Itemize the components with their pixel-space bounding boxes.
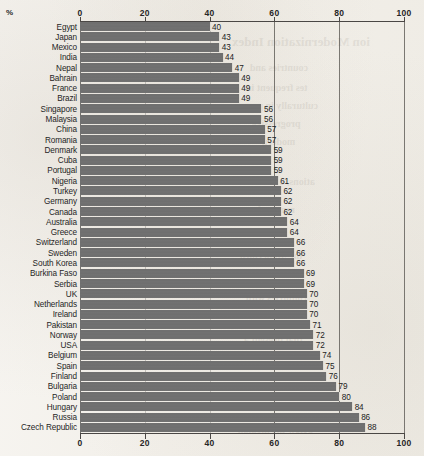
bar xyxy=(80,269,305,278)
bar xyxy=(80,372,327,381)
bar-value-label: 43 xyxy=(222,43,231,52)
bar-value-label: 70 xyxy=(309,310,318,319)
xtick-bottom-80: 80 xyxy=(334,438,344,448)
category-label: Bahrain xyxy=(49,73,77,82)
category-label: India xyxy=(60,53,77,62)
bar xyxy=(80,32,220,41)
bar-row: Germany62 xyxy=(80,197,404,206)
bar xyxy=(80,197,282,206)
bar-value-label: 66 xyxy=(296,238,305,247)
scanned-chart-page: ion Modernization Indexcountries andtes … xyxy=(0,0,424,456)
bar-row: Serbia69 xyxy=(80,279,404,288)
bar xyxy=(80,207,282,216)
bar xyxy=(80,53,224,62)
bar-value-label: 57 xyxy=(267,125,276,134)
category-label: Spain xyxy=(57,361,77,370)
bar-value-label: 88 xyxy=(368,423,377,432)
bar xyxy=(80,248,295,257)
category-label: Nepal xyxy=(56,63,77,72)
bar xyxy=(80,217,288,226)
category-label: Switzerland xyxy=(36,238,77,247)
bar xyxy=(80,238,295,247)
bar-row: Switzerland66 xyxy=(80,238,404,247)
bar-value-label: 70 xyxy=(309,289,318,298)
bar xyxy=(80,289,308,298)
bar-row: USA72 xyxy=(80,341,404,350)
category-label: Czech Republic xyxy=(21,423,77,432)
bar xyxy=(80,330,314,339)
bar xyxy=(80,94,240,103)
bar xyxy=(80,22,211,31)
bar-value-label: 57 xyxy=(267,135,276,144)
bar-row: Mexico43 xyxy=(80,43,404,52)
bar-value-label: 76 xyxy=(329,372,338,381)
bar xyxy=(80,228,288,237)
bar-value-label: 84 xyxy=(355,402,364,411)
bar xyxy=(80,320,311,329)
bar xyxy=(80,341,314,350)
bar-row: UK70 xyxy=(80,289,404,298)
bar-row: Ireland70 xyxy=(80,310,404,319)
bar-row: Sweden66 xyxy=(80,248,404,257)
xtick-bottom-20: 20 xyxy=(140,438,150,448)
bar-value-label: 69 xyxy=(306,279,315,288)
bar-row: Netherlands70 xyxy=(80,300,404,309)
bar-row: Nepal47 xyxy=(80,63,404,72)
category-label: Hungary xyxy=(47,402,77,411)
bar-row: Russia86 xyxy=(80,413,404,422)
category-label: Japan xyxy=(55,32,77,41)
bar xyxy=(80,63,233,72)
bar-row: Spain75 xyxy=(80,361,404,370)
bar xyxy=(80,310,308,319)
bar-row: Nigeria61 xyxy=(80,176,404,185)
bar-value-label: 86 xyxy=(361,413,370,422)
category-label: UK xyxy=(66,289,77,298)
bar-row: Cuba59 xyxy=(80,156,404,165)
axis-unit-label: % xyxy=(6,8,13,17)
category-label: Bulgaria xyxy=(48,382,77,391)
bar-row: Poland80 xyxy=(80,392,404,401)
category-label: USA xyxy=(60,341,77,350)
bar-row: Australia64 xyxy=(80,217,404,226)
bar-value-label: 72 xyxy=(316,341,325,350)
bar-value-label: 59 xyxy=(274,145,283,154)
category-label: Malaysia xyxy=(45,115,77,124)
bar-value-label: 59 xyxy=(274,156,283,165)
bar-value-label: 79 xyxy=(338,382,347,391)
bar-value-label: 72 xyxy=(316,330,325,339)
bar-row: France49 xyxy=(80,84,404,93)
category-label: Romania xyxy=(45,135,77,144)
bar xyxy=(80,361,324,370)
bar-row: Czech Republic88 xyxy=(80,423,404,432)
bar-value-label: 66 xyxy=(296,248,305,257)
category-label: Serbia xyxy=(54,279,77,288)
bar xyxy=(80,104,262,113)
bar-value-label: 66 xyxy=(296,258,305,267)
category-label: Finland xyxy=(51,372,77,381)
category-label: Mexico xyxy=(52,43,77,52)
category-label: Canada xyxy=(49,207,77,216)
tickmark-bottom-100 xyxy=(404,433,405,439)
category-label: China xyxy=(56,125,77,134)
bar-value-label: 59 xyxy=(274,166,283,175)
category-label: Singapore xyxy=(41,104,77,113)
bar xyxy=(80,413,360,422)
category-label: Nigeria xyxy=(52,176,77,185)
bar-value-label: 74 xyxy=(322,351,331,360)
bar xyxy=(80,423,366,432)
category-label: Russia xyxy=(53,413,77,422)
bar xyxy=(80,84,240,93)
bar-row: Turkey62 xyxy=(80,186,404,195)
bar-row: South Korea66 xyxy=(80,258,404,267)
bar-value-label: 80 xyxy=(342,392,351,401)
bar-row: Denmark59 xyxy=(80,145,404,154)
bar xyxy=(80,43,220,52)
category-label: Burkina Faso xyxy=(30,269,77,278)
bar xyxy=(80,382,337,391)
bar xyxy=(80,351,321,360)
category-label: Australia xyxy=(46,217,77,226)
bar-value-label: 62 xyxy=(283,197,292,206)
bar-value-label: 49 xyxy=(241,73,250,82)
category-label: Denmark xyxy=(44,145,77,154)
bar-value-label: 49 xyxy=(241,94,250,103)
